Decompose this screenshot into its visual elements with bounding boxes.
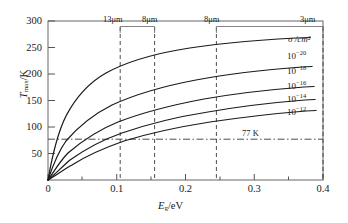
y-axis-title-main: T — [18, 92, 29, 98]
y-tick-label-300: 300 — [12, 15, 42, 26]
x-tick-label-0.4: 0.4 — [308, 183, 338, 194]
y-tick-label-100: 100 — [12, 121, 42, 132]
legend-mantissa: 10 — [287, 66, 296, 76]
annotation-77k: 77 K — [242, 128, 259, 138]
legend-title: σ /cm² — [288, 34, 310, 44]
legend-exponent: −18 — [296, 64, 306, 71]
y-tick-label-250: 250 — [12, 42, 42, 53]
y-axis-title-sub: max — [22, 80, 30, 92]
x-tick-label-0.2: 0.2 — [171, 183, 201, 194]
legend-exponent: −14 — [296, 92, 306, 99]
legend-mantissa: 10 — [287, 94, 296, 104]
legend-exponent: −20 — [296, 49, 306, 56]
legend-mantissa: 10 — [287, 81, 296, 91]
legend-item-1e-16: 10−16 — [287, 79, 306, 91]
legend-exponent: −12 — [296, 105, 306, 112]
x-tick-label-0.1: 0.1 — [102, 183, 132, 194]
x-axis-title: Eg/eV — [158, 200, 183, 212]
legend-item-1e-14: 10−14 — [287, 92, 306, 104]
chart-figure: 300 250 200 150 100 50 0 0.1 0.2 0.3 0.4… — [0, 0, 348, 223]
plot-frame — [48, 21, 323, 180]
annotation-13um: 13μm — [103, 14, 123, 24]
annotation-8um-b: 8μm — [204, 14, 219, 24]
x-tick-label-0: 0 — [33, 183, 63, 194]
annotation-8um-a: 8μm — [142, 14, 157, 24]
x-tick-label-0.3: 0.3 — [239, 183, 269, 194]
legend-mantissa: 10 — [287, 107, 296, 117]
annotation-3um: 3μm — [300, 14, 315, 24]
legend-item-1e-12: 10−12 — [287, 105, 306, 117]
legend-item-1e-20: 10−20 — [287, 49, 306, 61]
legend-item-1e-18: 10−18 — [287, 64, 306, 76]
y-axis-title: Tmax/K — [18, 54, 30, 114]
legend-exponent: −16 — [296, 79, 306, 86]
y-axis-title-unit: /K — [18, 70, 29, 81]
y-tick-label-50: 50 — [12, 148, 42, 159]
legend-mantissa: 10 — [287, 51, 296, 61]
x-axis-title-unit: /eV — [168, 200, 183, 211]
